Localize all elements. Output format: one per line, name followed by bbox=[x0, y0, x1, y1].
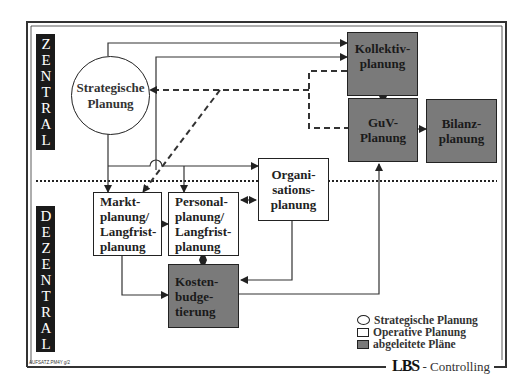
node-label: planung/ bbox=[100, 209, 156, 224]
document-reference: AUFSATZ.PM4Y g/2 bbox=[29, 360, 70, 365]
node-label: Strategische bbox=[77, 80, 145, 96]
footer-branding: LBS - Controlling bbox=[388, 357, 494, 375]
footer-text: - Controlling bbox=[423, 359, 491, 374]
gray-square-icon bbox=[357, 340, 369, 349]
node-label: tierung bbox=[175, 304, 218, 319]
legend: Strategische Planung Operative Planung a… bbox=[357, 314, 478, 350]
node-label: Personal- bbox=[175, 194, 231, 209]
legend-label: abgeleitete Pläne bbox=[373, 338, 456, 350]
zone-label-text: ZENTRAL bbox=[38, 36, 53, 148]
node-label: planung/ bbox=[175, 209, 231, 224]
white-square-icon bbox=[357, 328, 369, 337]
node-label: Langfrist- bbox=[175, 224, 231, 239]
node-organisationsplanung[interactable]: Organi- sations- planung bbox=[258, 158, 329, 221]
node-label: Planung bbox=[77, 96, 145, 112]
lbs-logo: LBS bbox=[392, 357, 419, 374]
node-label: Langfrist- bbox=[100, 224, 156, 239]
legend-item-strategic: Strategische Planung bbox=[357, 314, 478, 326]
node-label: Kollektiv- bbox=[355, 41, 411, 56]
legend-label: Strategische Planung bbox=[374, 314, 478, 326]
node-marktplanung[interactable]: Markt- planung/ Langfrist- planung bbox=[93, 192, 162, 256]
node-label: Planung bbox=[360, 130, 406, 145]
node-bilanzplanung[interactable]: Bilanz- planung bbox=[426, 99, 497, 163]
legend-item-derived: abgeleitete Pläne bbox=[357, 338, 478, 350]
legend-item-operative: Operative Planung bbox=[357, 326, 478, 338]
node-label: planung bbox=[439, 131, 485, 146]
node-label: Kosten- bbox=[175, 274, 218, 289]
node-label: Markt- bbox=[100, 194, 156, 209]
circle-icon bbox=[357, 315, 370, 325]
node-label: Organi- bbox=[271, 167, 317, 182]
node-kollektivplanung[interactable]: Kollektiv- planung bbox=[347, 32, 418, 96]
node-guv-planung[interactable]: GuV- Planung bbox=[348, 98, 418, 162]
node-label: budge- bbox=[175, 289, 218, 304]
node-label: planung bbox=[271, 197, 317, 212]
node-label: Bilanz- bbox=[439, 116, 485, 131]
node-label: GuV- bbox=[360, 115, 406, 130]
zone-label-text: DEZENTRAL bbox=[38, 208, 53, 352]
legend-label: Operative Planung bbox=[373, 326, 466, 338]
zone-label-zentral: ZENTRAL bbox=[36, 34, 55, 150]
node-label: planung bbox=[175, 239, 231, 254]
node-strategische-planung[interactable]: Strategische Planung bbox=[71, 56, 150, 135]
zone-label-dezentral: DEZENTRAL bbox=[36, 206, 55, 352]
node-kostenbudgetierung[interactable]: Kosten- budge- tierung bbox=[168, 264, 239, 328]
node-label: sations- bbox=[271, 182, 317, 197]
node-label: planung bbox=[355, 56, 411, 71]
node-label: planung bbox=[100, 239, 156, 254]
node-personalplanung[interactable]: Personal- planung/ Langfrist- planung bbox=[168, 192, 239, 256]
